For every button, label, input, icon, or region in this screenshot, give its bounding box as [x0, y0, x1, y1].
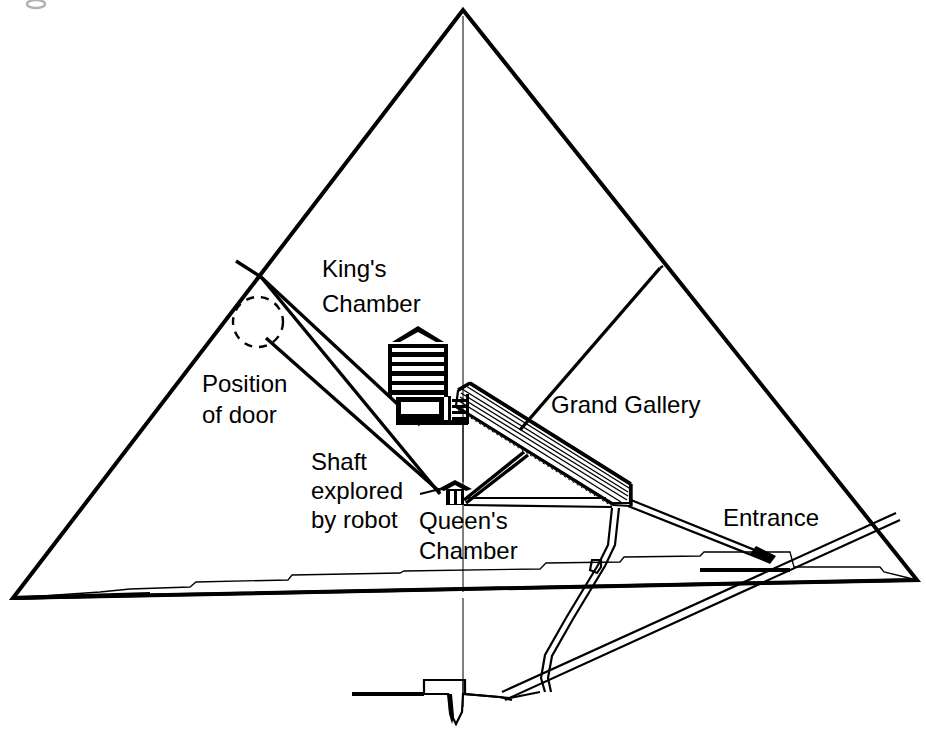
- label-shaft-line2: explored: [311, 477, 403, 504]
- pyramid-cross-section-diagram: King's Chamber Position of door Shaft ex…: [0, 0, 926, 751]
- label-shaft-line3: by robot: [311, 506, 398, 533]
- label-shaft-line1: Shaft: [311, 448, 367, 475]
- scan-artifact: [27, 0, 45, 8]
- position-of-door-marker: [233, 297, 283, 347]
- label-queens-chamber-line1: Queen's: [419, 507, 508, 534]
- pyramid-diagram-canvas: King's Chamber Position of door Shaft ex…: [0, 0, 926, 751]
- label-grand-gallery: Grand Gallery: [551, 391, 700, 418]
- label-kings-chamber-line1: King's: [322, 255, 387, 282]
- label-queens-chamber-line2: Chamber: [419, 537, 518, 564]
- well-shaft: [541, 508, 619, 692]
- core-masonry-lines: [236, 261, 663, 494]
- label-position-of-door-line1: Position: [202, 370, 287, 397]
- label-entrance: Entrance: [723, 504, 819, 531]
- label-position-of-door-line2: of door: [202, 401, 277, 428]
- label-kings-chamber-line2: Chamber: [322, 290, 421, 317]
- descending-passage: [502, 500, 900, 700]
- kings-chamber-structure: [388, 326, 469, 425]
- position-of-door-circle: [233, 297, 283, 347]
